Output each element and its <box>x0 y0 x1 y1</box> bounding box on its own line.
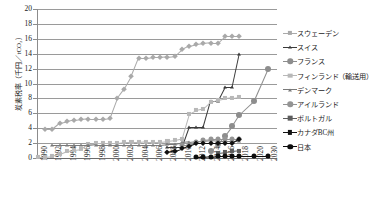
legend-marker-icon <box>283 71 297 81</box>
data-point <box>230 153 235 158</box>
legend-item-5[interactable]: デンマーク <box>283 83 369 97</box>
legend-label: 日本 <box>297 142 311 152</box>
data-point <box>215 153 220 158</box>
y-tick-label: 10 <box>6 80 32 88</box>
data-point <box>201 155 206 160</box>
data-point <box>266 153 271 158</box>
legend-item-9[interactable]: 日本 <box>283 140 369 154</box>
legend-marker-icon <box>283 99 297 109</box>
y-tick-label: 12 <box>6 65 32 73</box>
legend-label: フィンランド（輸送用） <box>297 71 369 81</box>
data-point <box>237 153 242 158</box>
data-point <box>251 153 256 158</box>
legend-marker-icon <box>283 142 297 152</box>
y-tick-label: 20 <box>6 5 32 13</box>
legend-label: アイルランド <box>297 99 338 109</box>
plot-area <box>37 9 277 158</box>
legend-item-7[interactable]: ポルトガル <box>283 111 369 125</box>
legend-label: デンマーク <box>297 85 332 95</box>
y-tick-label: 8 <box>6 94 32 102</box>
legend-marker-icon <box>283 85 297 95</box>
legend-marker-icon <box>283 56 297 66</box>
data-point <box>208 154 213 159</box>
legend-marker-icon <box>283 28 297 38</box>
legend-label: フランス <box>297 56 325 66</box>
y-tick-label: 6 <box>6 109 32 117</box>
legend-item-3[interactable]: フランス <box>283 54 369 68</box>
y-tick-label: 16 <box>6 35 32 43</box>
legend-marker-icon <box>283 127 297 137</box>
legend-marker-icon <box>283 113 297 123</box>
data-point <box>222 153 227 158</box>
chart-legend: スウェーデンスイスフランスフィンランド（輸送用）デンマークアイルランドポルトガル… <box>283 26 369 154</box>
legend-item-4[interactable]: フィンランド（輸送用） <box>283 69 369 83</box>
legend-label: スイス <box>297 42 318 52</box>
legend-label: スウェーデン <box>297 28 338 38</box>
legend-label: カナダBC州 <box>297 127 334 137</box>
carbon-tax-rate-chart: 炭素税率（千円／tCO₂） 02468101214161820 19901992… <box>0 0 369 200</box>
legend-item-8[interactable]: カナダBC州 <box>283 125 369 139</box>
legend-marker-icon <box>283 42 297 52</box>
legend-item-1[interactable]: スウェーデン <box>283 26 369 40</box>
y-tick-label: 2 <box>6 139 32 147</box>
legend-item-6[interactable]: アイルランド <box>283 97 369 111</box>
legend-label: ポルトガル <box>297 113 332 123</box>
series-9 <box>38 9 277 158</box>
y-tick-label: 18 <box>6 20 32 28</box>
legend-item-2[interactable]: スイス <box>283 40 369 54</box>
y-tick-label: 4 <box>6 124 32 132</box>
axis-baseline <box>38 158 277 159</box>
y-tick-label: 0 <box>6 154 32 162</box>
data-point <box>194 155 199 160</box>
y-tick-label: 14 <box>6 50 32 58</box>
